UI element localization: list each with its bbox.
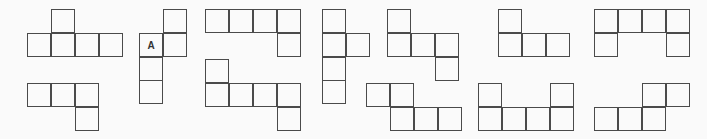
net-cell [253, 83, 277, 107]
net-cell [666, 33, 690, 57]
net-cell [346, 33, 370, 57]
labeled-cell: A [139, 33, 163, 57]
net-cell [522, 33, 546, 57]
net-cell [277, 83, 301, 107]
net-cell [390, 83, 414, 107]
net-cell [387, 9, 411, 33]
net-cell [205, 9, 229, 33]
net-cell [546, 33, 570, 57]
net-cell [498, 9, 522, 33]
net-cell [526, 107, 550, 131]
net-cell [253, 9, 277, 33]
net-cell [387, 33, 411, 57]
net-cell [139, 80, 163, 104]
net-cell [435, 33, 459, 57]
net-cell [666, 9, 690, 33]
net-cell [277, 107, 301, 131]
net-cell [618, 9, 642, 33]
net-cell [27, 83, 51, 107]
net-cell [411, 33, 435, 57]
net-cell [478, 83, 502, 107]
net-cell [642, 107, 666, 131]
net-cell [277, 33, 301, 57]
net-cell [550, 107, 574, 131]
cube-nets-diagram: A [0, 0, 707, 139]
net-cell [322, 57, 346, 81]
net-cell [205, 83, 229, 107]
net-cell [594, 33, 618, 57]
net-cell [163, 9, 187, 33]
net-cell [99, 33, 123, 57]
net-cell [594, 9, 618, 33]
net-cell [163, 33, 187, 57]
net-cell [438, 107, 462, 131]
net-cell [414, 107, 438, 131]
net-cell [27, 33, 51, 57]
net-cell [322, 33, 346, 57]
net-cell [390, 107, 414, 131]
net-cell [51, 9, 75, 33]
net-cell [229, 9, 253, 33]
net-cell [51, 33, 75, 57]
net-cell [435, 57, 459, 81]
net-cell [229, 83, 253, 107]
net-cell [51, 83, 75, 107]
net-cell [75, 83, 99, 107]
net-cell [666, 83, 690, 107]
net-cell [478, 107, 502, 131]
net-cell [277, 9, 301, 33]
net-cell [322, 9, 346, 33]
net-cell [139, 57, 163, 81]
net-cell [322, 80, 346, 104]
net-cell [75, 107, 99, 131]
net-cell [205, 59, 229, 83]
net-cell [594, 107, 618, 131]
net-cell [366, 83, 390, 107]
net-cell [75, 33, 99, 57]
net-cell [642, 83, 666, 107]
net-cell [498, 33, 522, 57]
net-cell [642, 9, 666, 33]
net-cell [502, 107, 526, 131]
net-cell [550, 83, 574, 107]
net-cell [618, 107, 642, 131]
